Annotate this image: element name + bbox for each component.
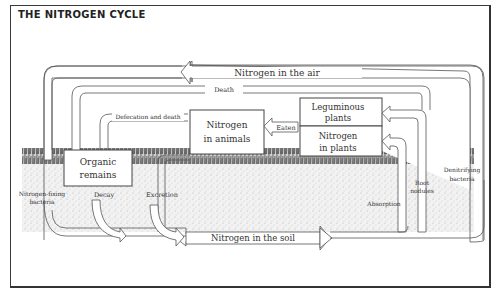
fixing-label-1: Nitrogen-fixing xyxy=(19,190,66,198)
plants-label-2: in plants xyxy=(319,143,356,153)
absorption-label: Absorption xyxy=(366,200,401,208)
denitrifying-label-1: Denitrifying xyxy=(444,166,481,174)
eaten-flow: Eaten xyxy=(264,118,298,136)
air-label: Nitrogen in the air xyxy=(234,68,320,78)
decay-label: Decay xyxy=(94,191,115,199)
animals-label-2: in animals xyxy=(204,134,251,144)
leguminous-node: Leguminous plants xyxy=(300,98,382,126)
plants-node: Nitrogen in plants xyxy=(300,126,382,156)
eaten-label: Eaten xyxy=(276,124,295,132)
root-label-2: nodules xyxy=(410,187,434,194)
organic-remains-node: Organic remains xyxy=(64,150,132,186)
animals-node: Nitrogen in animals xyxy=(190,110,264,154)
soil-label: Nitrogen in the soil xyxy=(211,233,295,243)
death-label: Death xyxy=(214,86,234,94)
organic-label-1: Organic xyxy=(80,157,117,167)
organic-label-2: remains xyxy=(80,170,117,180)
leguminous-label-2: plants xyxy=(325,113,351,123)
nitrogen-cycle-diagram: Nitrogen in the air Death Defecation and… xyxy=(0,0,500,296)
animals-label-1: Nitrogen xyxy=(207,120,248,130)
leguminous-label-1: Leguminous xyxy=(312,102,365,112)
defecation-label: Defecation and death xyxy=(115,113,180,120)
root-label-1: Root xyxy=(415,179,430,186)
denitrifying-label-2: bacteria xyxy=(449,175,475,182)
fixing-label-2: bacteria xyxy=(29,198,55,205)
excretion-label: Excretion xyxy=(146,191,178,199)
plants-label-1: Nitrogen xyxy=(319,131,358,141)
